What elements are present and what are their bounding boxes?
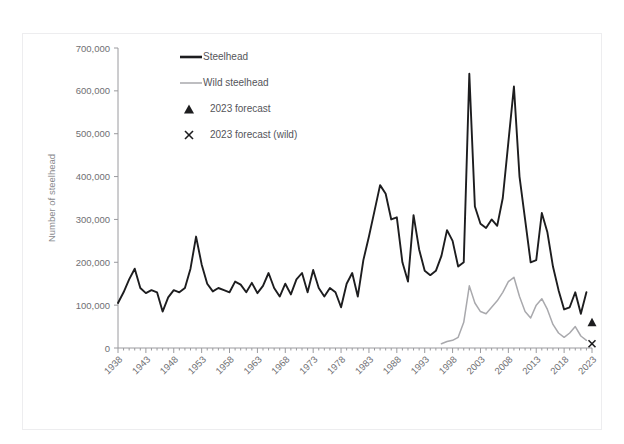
legend-item-steelhead: Steelhead (180, 51, 248, 62)
y-tick-label: 200,000 (76, 257, 110, 268)
x-tick-label: 1963 (241, 354, 264, 377)
legend-item-2023-forecast: 2023 forecast (184, 103, 271, 114)
y-tick-label: 700,000 (76, 43, 110, 54)
chart-figure: 0100,000200,000300,000400,000500,000600,… (0, 0, 624, 444)
data-series-layer (118, 74, 586, 344)
y-axis-ticks: 0100,000200,000300,000400,000500,000600,… (76, 43, 118, 354)
legend-swatch (185, 131, 193, 139)
legend-swatch (184, 105, 194, 114)
legend-label: Wild steelhead (203, 77, 269, 88)
y-tick-label: 0 (105, 343, 110, 354)
chart-legend: SteelheadWild steelhead2023 forecast2023… (180, 51, 297, 140)
x-tick-label: 1993 (408, 354, 431, 377)
legend-label: 2023 forecast (210, 103, 271, 114)
y-tick-label: 500,000 (76, 128, 110, 139)
x-tick-label: 2018 (548, 354, 571, 377)
x-tick-label: 2003 (464, 354, 487, 377)
y-tick-label: 400,000 (76, 171, 110, 182)
series-line-wild-steelhead (441, 277, 586, 343)
legend-label: 2023 forecast (wild) (210, 129, 297, 140)
y-tick-label: 100,000 (76, 300, 110, 311)
x-tick-label: 2013 (520, 354, 543, 377)
y-axis-title: Number of steelhead (46, 154, 57, 242)
x-tick-label: 1953 (185, 354, 208, 377)
x-tick-label: 1948 (157, 354, 180, 377)
marker-2023-forecast-wild- (589, 340, 596, 347)
x-tick-label: 1973 (297, 354, 320, 377)
steelhead-line-chart: 0100,000200,000300,000400,000500,000600,… (0, 0, 624, 444)
legend-label: Steelhead (203, 51, 248, 62)
x-tick-label: 1943 (130, 354, 153, 377)
plot-svg: 0100,000200,000300,000400,000500,000600,… (0, 0, 624, 444)
legend-item-wild-steelhead: Wild steelhead (180, 77, 269, 88)
x-tick-label: 1968 (269, 354, 292, 377)
x-tick-label: 1988 (381, 354, 404, 377)
y-tick-label: 300,000 (76, 214, 110, 225)
x-tick-label: 2023 (576, 354, 599, 377)
x-tick-label: 1978 (325, 354, 348, 377)
legend-item-2023-forecast-wild-: 2023 forecast (wild) (185, 129, 297, 140)
x-tick-label: 1938 (102, 354, 125, 377)
x-tick-label: 1983 (353, 354, 376, 377)
y-tick-label: 600,000 (76, 85, 110, 96)
marker-2023-forecast (588, 318, 597, 327)
x-tick-label: 1958 (213, 354, 236, 377)
x-tick-label: 2008 (492, 354, 515, 377)
x-tick-label: 1998 (436, 354, 459, 377)
forecast-markers-layer (588, 318, 597, 347)
x-axis-ticks: 1938194319481953195819631968197319781983… (102, 348, 599, 376)
